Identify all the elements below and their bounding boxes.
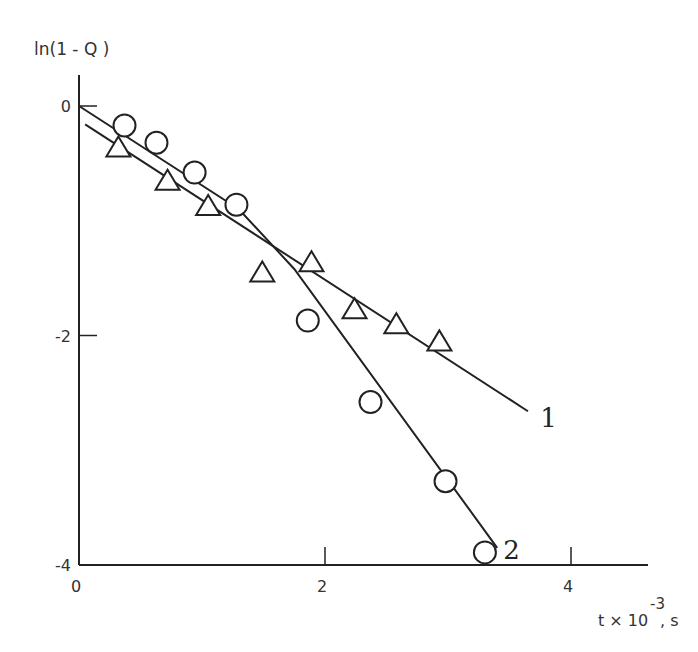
chart: 0-2-4024 ln(1 - Q ) t × 10 -3 , s 12 xyxy=(0,0,698,652)
x-axis-label-main: t × 10 xyxy=(598,611,648,630)
y-axis-label: ln(1 - Q ) xyxy=(34,39,109,59)
x-tick-label: 0 xyxy=(71,577,81,596)
markers xyxy=(106,115,496,564)
circle-marker xyxy=(435,470,457,492)
x-axis-label: t × 10 -3 , s xyxy=(598,595,679,630)
triangle-marker xyxy=(299,251,323,271)
circle-marker xyxy=(297,310,319,332)
ticks xyxy=(79,106,571,565)
triangle-marker xyxy=(384,313,408,333)
curve-label: 2 xyxy=(503,535,520,565)
circle-marker xyxy=(474,541,496,563)
x-tick-label: 2 xyxy=(317,577,327,596)
tick-labels: 0-2-4024 xyxy=(55,97,573,596)
triangle-marker xyxy=(427,330,451,350)
circle-marker xyxy=(225,194,247,216)
curve-labels: 12 xyxy=(503,403,556,565)
x-tick-label: 4 xyxy=(563,577,573,596)
triangle-marker xyxy=(250,262,274,282)
y-tick-label: -4 xyxy=(55,556,71,575)
x-axis-label-unit: , s xyxy=(660,611,679,630)
circle-marker xyxy=(360,391,382,413)
y-tick-label: -2 xyxy=(55,327,71,346)
y-tick-label: 0 xyxy=(61,97,71,116)
curve-label: 1 xyxy=(540,403,557,433)
circle-marker xyxy=(145,132,167,154)
triangle-marker xyxy=(343,298,367,318)
circle-marker xyxy=(114,115,136,137)
circle-marker xyxy=(184,162,206,184)
